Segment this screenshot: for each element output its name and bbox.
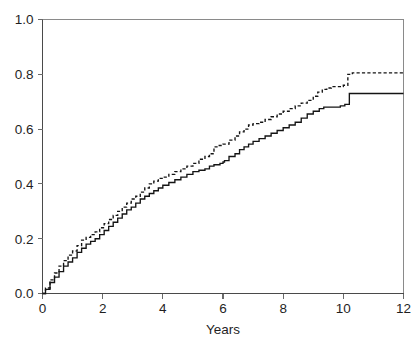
y-tick-label: 0.6 [15,122,34,137]
y-tick-label: 0.8 [15,67,34,82]
x-tick-label: 6 [219,301,227,316]
x-tick-label: 8 [279,301,287,316]
x-tick-label: 4 [159,301,167,316]
chart-figure: 0.00.20.40.60.81.0 024681012 Years [0,0,417,345]
x-tick-label: 10 [336,301,351,316]
y-tick-label: 0.0 [15,286,34,301]
x-axis-tick-labels: 024681012 [39,301,411,316]
cumulative-incidence-chart: 0.00.20.40.60.81.0 024681012 Years [0,0,417,345]
y-tick-label: 0.2 [15,232,34,247]
x-tick-label: 12 [396,301,411,316]
data-series-group [43,73,404,294]
x-tick-label: 0 [39,301,47,316]
y-tick-label: 0.4 [15,177,34,192]
plot-frame-border [43,20,404,294]
y-axis-tick-labels: 0.00.20.40.60.81.0 [15,12,34,301]
series-dashed-curve [43,73,404,294]
x-axis-ticks [43,294,404,299]
series-solid-curve [43,93,404,293]
y-tick-label: 1.0 [15,12,34,27]
x-tick-label: 2 [99,301,107,316]
y-axis-ticks [38,20,43,294]
x-axis-title: Years [206,322,240,337]
plot-frame [43,20,404,294]
